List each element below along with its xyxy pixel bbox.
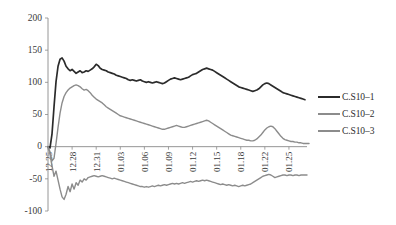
x-tick-label: 01.18 [236,151,246,172]
x-tick-label: 12.28 [68,151,78,172]
y-tick-label: 100 [28,77,43,87]
y-tick-label: 0 [37,141,42,151]
series-line-c-s10-1 [48,58,305,148]
y-tick-label: 50 [33,109,43,119]
legend-item-label: C.S10–1 [342,92,374,102]
y-tick-label: -50 [29,174,42,184]
legend-item[interactable]: C.S10–2 [318,105,394,122]
x-tick-label: 01.03 [116,151,126,172]
x-tick-label: 12.31 [92,152,102,172]
legend-item-label: C.S10–3 [342,126,374,136]
legend-item[interactable]: C.S10–3 [318,122,394,139]
y-axis-ticks: 200150100500-50-100 [25,13,48,216]
series-line-c-s10-2 [48,85,309,161]
legend-color-swatch [318,113,340,115]
data-series-group [48,58,309,200]
line-chart: 200150100500-50-100 12.2512.2812.3101.03… [0,0,396,225]
legend-color-swatch [318,130,340,132]
legend-item-label: C.S10–2 [342,109,374,119]
x-tick-label: 01.09 [164,151,174,172]
chart-legend: C.S10–1C.S10–2C.S10–3 [318,88,394,139]
x-tick-label: 01.25 [284,151,294,172]
x-tick-label: 01.06 [140,151,150,172]
x-axis-ticks: 12.2512.2812.3101.0301.0601.0901.1201.15… [44,147,295,172]
x-tick-label: 01.22 [260,152,270,172]
legend-color-swatch [318,96,340,98]
y-tick-label: 200 [28,13,43,23]
y-tick-label: 150 [28,45,43,55]
x-tick-label: 01.12 [188,152,198,172]
x-tick-label: 01.15 [212,151,222,172]
legend-item[interactable]: C.S10–1 [318,88,394,105]
y-tick-label: -100 [25,206,43,216]
